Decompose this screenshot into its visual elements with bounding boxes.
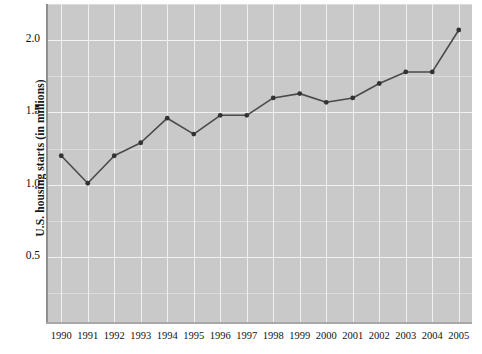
y-tick-label: 2.0 xyxy=(0,32,40,44)
gridline-vertical xyxy=(88,4,89,322)
gridline-vertical xyxy=(432,4,433,322)
gridline-vertical xyxy=(194,4,195,322)
gridline-vertical xyxy=(379,4,380,322)
gridline-vertical xyxy=(459,4,460,322)
gridline-horizontal-minor xyxy=(48,76,472,77)
gridline-vertical xyxy=(114,4,115,322)
plot-area xyxy=(48,4,472,322)
gridline-horizontal xyxy=(48,185,472,186)
y-tick-label: 0.5 xyxy=(0,249,40,261)
gridline-vertical xyxy=(167,4,168,322)
gridline-vertical xyxy=(353,4,354,322)
gridline-vertical xyxy=(220,4,221,322)
x-tick-label: 2005 xyxy=(442,330,476,341)
y-axis-title: U.S. housing starts (in millions) xyxy=(34,33,46,283)
gridline-vertical xyxy=(141,4,142,322)
gridline-horizontal-minor xyxy=(48,293,472,294)
gridline-vertical xyxy=(300,4,301,322)
gridline-vertical xyxy=(273,4,274,322)
gridline-vertical xyxy=(326,4,327,322)
gridline-horizontal xyxy=(48,40,472,41)
x-axis-line xyxy=(46,322,472,324)
gridline-horizontal-minor xyxy=(48,221,472,222)
y-tick-label: 1.0 xyxy=(0,177,40,189)
gridline-vertical xyxy=(61,4,62,322)
gridline-vertical xyxy=(406,4,407,322)
gridline-horizontal xyxy=(48,257,472,258)
gridline-horizontal xyxy=(48,112,472,113)
gridline-horizontal-minor xyxy=(48,149,472,150)
gridline-horizontal-minor xyxy=(48,4,472,5)
line-chart: U.S. housing starts (in millions) 0.51.0… xyxy=(0,0,482,354)
gridline-vertical xyxy=(247,4,248,322)
y-tick-label: 1.5 xyxy=(0,104,40,116)
